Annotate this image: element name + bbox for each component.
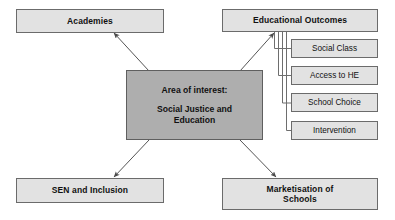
arrow-center-to-sen-and-inclusion (114, 140, 149, 177)
bracket-educational-outcomes (275, 31, 292, 131)
node-social-class[interactable]: Social Class (291, 39, 378, 58)
center-subject: Social Justice and Education (157, 104, 232, 125)
node-access-to-he-label: Access to HE (310, 71, 359, 81)
node-academies[interactable]: Academies (16, 9, 164, 33)
node-marketisation-of-schools-label: Marketisation of Schools (267, 184, 334, 205)
node-marketisation-of-schools[interactable]: Marketisation of Schools (222, 178, 378, 210)
node-access-to-he[interactable]: Access to HE (291, 66, 378, 85)
node-area-of-interest[interactable]: Area of interest: Social Justice and Edu… (126, 70, 263, 140)
diagram-canvas: Academies Educational Outcomes Area of i… (0, 0, 395, 220)
node-school-choice-label: School Choice (308, 98, 361, 108)
arrow-center-to-academies (114, 33, 149, 71)
bracket-branch-school-choice (283, 31, 292, 103)
node-sen-and-inclusion-label: SEN and Inclusion (52, 185, 128, 195)
node-intervention-label: Intervention (313, 126, 356, 136)
bracket-branch-access-to-he (279, 31, 292, 76)
node-sen-and-inclusion[interactable]: SEN and Inclusion (16, 178, 164, 203)
bracket-branch-social-class (275, 31, 292, 49)
node-academies-label: Academies (67, 16, 113, 26)
node-social-class-label: Social Class (312, 44, 357, 54)
node-educational-outcomes-label: Educational Outcomes (253, 15, 347, 25)
arrow-center-to-educational-outcomes (240, 33, 274, 71)
node-educational-outcomes[interactable]: Educational Outcomes (222, 9, 378, 32)
node-school-choice[interactable]: School Choice (291, 93, 378, 112)
arrow-center-to-marketisation-of-schools (240, 140, 276, 177)
node-intervention[interactable]: Intervention (291, 121, 378, 140)
center-heading: Area of interest: (162, 85, 228, 95)
